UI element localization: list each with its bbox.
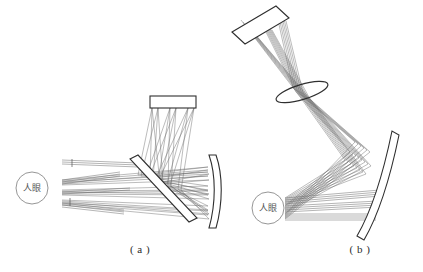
- panel-b-eye-label: 人眼: [259, 203, 277, 213]
- panel-a-eye-label: 人眼: [23, 183, 41, 193]
- panel-a-eye-symbol: 人眼: [16, 172, 48, 204]
- panel-b-caption: ( b ): [330, 243, 390, 255]
- panel-b-eye-symbol: 人眼: [252, 192, 284, 224]
- figure-root: 人眼: [0, 0, 423, 272]
- optical-diagram-canvas: 人眼: [0, 0, 423, 272]
- panel-a-display-panel: [150, 96, 196, 108]
- panel-a-caption: ( a ): [110, 243, 170, 255]
